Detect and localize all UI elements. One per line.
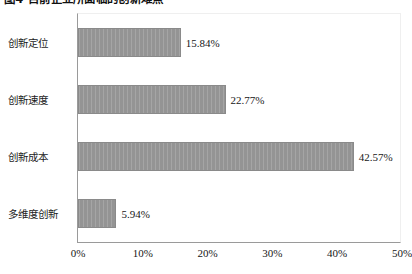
x-axis-tick-label: 50% <box>392 247 412 259</box>
bar-value-label: 22.77% <box>226 85 265 114</box>
category-label: 多维度创新 <box>0 185 72 242</box>
bar-row: 创新定位 15.84% <box>0 14 404 71</box>
bar-row: 创新速度 22.77% <box>0 71 404 128</box>
bar-track: 42.57% <box>78 128 404 185</box>
x-axis-tick-label: 30% <box>262 247 282 259</box>
bar-value-label: 15.84% <box>181 28 220 57</box>
x-axis: 0%10%20%30%40%50% <box>0 245 404 267</box>
bar-value-label: 5.94% <box>116 199 149 228</box>
bar-row: 创新成本 42.57% <box>0 128 404 185</box>
bar-chart: 创新定位 15.84% 创新速度 22.77% 创新成本 42.57% 多维度创… <box>0 9 404 274</box>
bar[interactable] <box>78 85 226 114</box>
category-label: 创新成本 <box>0 128 72 185</box>
bar-row: 多维度创新 5.94% <box>0 185 404 242</box>
category-label: 创新定位 <box>0 14 72 71</box>
bar[interactable] <box>78 142 354 171</box>
x-axis-tick-label: 0% <box>71 247 86 259</box>
x-axis-tick-label: 40% <box>327 247 347 259</box>
bar-track: 22.77% <box>78 71 404 128</box>
bar[interactable] <box>78 28 181 57</box>
x-axis-tick-label: 20% <box>198 247 218 259</box>
bar-value-label: 42.57% <box>354 142 393 171</box>
bar[interactable] <box>78 199 116 228</box>
bar-track: 15.84% <box>78 14 404 71</box>
bar-track: 5.94% <box>78 185 404 242</box>
x-axis-tick-label: 10% <box>133 247 153 259</box>
page-title: 图4 目前企业所面临的创新难点 <box>4 0 400 7</box>
category-label: 创新速度 <box>0 71 72 128</box>
